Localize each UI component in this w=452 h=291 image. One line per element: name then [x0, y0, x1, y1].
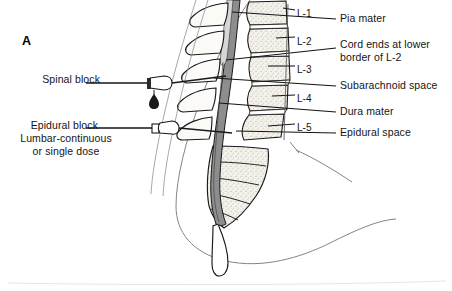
panel-letter: A: [22, 34, 31, 48]
label-vertebra-l3: L-3: [297, 64, 311, 75]
label-vertebra-l4: L-4: [297, 93, 311, 104]
label-epidural-sub-2: or single dose: [0, 145, 132, 158]
label-cord-ends-line2: border of L-2: [340, 51, 401, 64]
label-vertebra-l2: L-2: [297, 36, 311, 47]
label-subarachnoid-space: Subarachnoid space: [340, 79, 438, 92]
spinal-epidural-block-figure: A Spinal block Epidural block Lumbar-con…: [0, 0, 452, 291]
label-epidural-sub-1: Lumbar-continuous: [0, 132, 132, 145]
vertebral-bodies: [242, 1, 290, 140]
label-pia-mater: Pia mater: [340, 12, 386, 25]
label-cord-ends-line1: Cord ends at lower: [340, 38, 430, 51]
label-epidural-block: Epidural block: [0, 119, 98, 132]
label-vertebra-l5: L-5: [297, 122, 311, 133]
label-dura-mater: Dura mater: [340, 105, 394, 118]
label-epidural-space: Epidural space: [340, 126, 411, 139]
label-spinal-block: Spinal block: [0, 73, 100, 86]
label-vertebra-l1: L-1: [297, 8, 311, 19]
